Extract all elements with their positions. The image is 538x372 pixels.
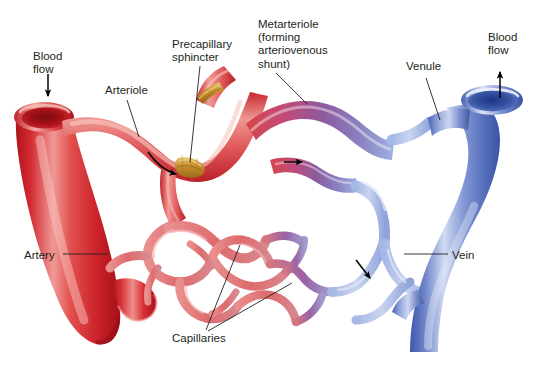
artery-trunk-group	[14, 102, 120, 345]
blood-flow-in-label: Blood flow	[33, 50, 62, 76]
metarteriole-label: Metarteriole (forming arteriovenous shun…	[258, 18, 328, 71]
metarteriole-lower-group	[270, 158, 358, 193]
precapillary-sphincter-label: Precapillary sphincter	[172, 38, 232, 64]
metarteriole-shunt-group	[246, 101, 394, 160]
vein-label: Vein	[452, 249, 474, 262]
venule-label: Venule	[406, 60, 441, 73]
arteriole-label: Arteriole	[105, 84, 148, 97]
capillaries-label: Capillaries	[172, 332, 226, 345]
microcirculation-diagram: Blood flow Arteriole Precapillary sphinc…	[0, 0, 538, 372]
arteriole-upper-stub-group	[196, 66, 236, 108]
arteriole-group	[62, 92, 268, 182]
artery-label: Artery	[24, 249, 55, 262]
blood-flow-out-label: Blood flow	[488, 31, 517, 57]
